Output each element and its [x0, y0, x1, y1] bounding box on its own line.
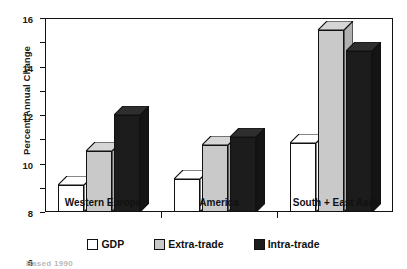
- legend-item-intra-trade[interactable]: Intra-trade: [254, 238, 320, 250]
- y-tick-label: 14: [22, 62, 33, 73]
- group-separator: [277, 212, 278, 218]
- y-tick: 6: [40, 139, 45, 140]
- x-group-label: America: [161, 197, 277, 208]
- legend-swatch-icon: [87, 239, 98, 250]
- legend-swatch-icon: [154, 239, 165, 250]
- footnote-text: Based 1990: [26, 259, 73, 268]
- chart-legend: GDPExtra-tradeIntra-trade: [0, 238, 407, 250]
- y-tick: 10: [40, 91, 45, 92]
- y-tick: 16: [40, 18, 45, 19]
- legend-label: Intra-trade: [268, 238, 320, 250]
- bar-side-face: [372, 42, 381, 212]
- x-group-label: South + East Asia: [277, 197, 393, 208]
- bar-top-outline: [346, 42, 381, 51]
- legend-item-gdp[interactable]: GDP: [87, 238, 124, 250]
- bar-top-outline: [114, 106, 149, 115]
- bar-front: [346, 51, 372, 212]
- y-axis-line: [45, 18, 46, 212]
- legend-item-extra-trade[interactable]: Extra-trade: [154, 238, 223, 250]
- y-tick-label: 12: [22, 111, 33, 122]
- bar-front: [318, 30, 344, 212]
- legend-label: GDP: [101, 238, 124, 250]
- plot-area: 0246810121416: [45, 18, 393, 212]
- legend-label: Extra-trade: [168, 238, 223, 250]
- y-tick: 14: [40, 42, 45, 43]
- bar-top-outline: [318, 21, 353, 30]
- legend-swatch-icon: [254, 239, 265, 250]
- bar-intra-trade-2: [346, 42, 381, 212]
- chart-figure: Percent Annual Change 0246810121416 Wes: [0, 0, 407, 269]
- y-tick: 4: [40, 164, 45, 165]
- y-axis-title: Percent Annual Change: [21, 21, 32, 181]
- x-group-label: Western Europe: [45, 197, 161, 208]
- y-tick: 2: [40, 188, 45, 189]
- y-tick: 0: [40, 212, 45, 213]
- y-tick: 12: [40, 67, 45, 68]
- y-tick-label: 16: [22, 14, 33, 25]
- y-tick: 8: [40, 115, 45, 116]
- bar-top-outline: [230, 128, 265, 137]
- y-tick-label: 8: [28, 208, 33, 219]
- group-separator: [161, 212, 162, 218]
- y-tick-label: 10: [22, 159, 33, 170]
